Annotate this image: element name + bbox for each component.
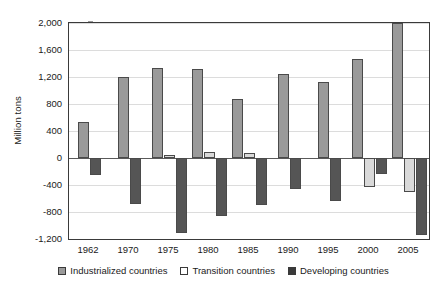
- x-axis-tick-label: 2000: [357, 244, 378, 255]
- bar: [278, 74, 289, 158]
- x-axis-tick-label: 2005: [397, 244, 418, 255]
- bar-group: [189, 23, 229, 239]
- bar: [256, 158, 267, 205]
- bar: [376, 158, 387, 174]
- bar: [152, 68, 163, 158]
- bar: [352, 59, 363, 158]
- y-axis-tick-label: 1,200: [38, 71, 62, 82]
- bar-group: [349, 23, 389, 239]
- bar: [204, 152, 215, 158]
- bar: [176, 158, 187, 233]
- bar-group: [389, 23, 429, 239]
- y-axis-tick-label: -1,200: [35, 233, 62, 244]
- y-axis-title-label: Million tons: [12, 96, 23, 145]
- y-axis-tick-label: -800: [43, 206, 62, 217]
- y-axis-tick-label: 400: [46, 125, 62, 136]
- legend-item[interactable]: Industrialized countries: [58, 265, 167, 276]
- legend-swatch-icon: [58, 267, 66, 275]
- y-axis-tick-label: 0: [57, 152, 62, 163]
- y-axis-tick-label: 800: [46, 98, 62, 109]
- bar: [330, 158, 341, 201]
- bar-group: [269, 23, 309, 239]
- bar-group: [109, 23, 149, 239]
- chart-legend: Industrialized countriesTransition count…: [0, 265, 447, 276]
- bar: [290, 158, 301, 189]
- x-axis-tick-label: 1975: [157, 244, 178, 255]
- gridline: [69, 239, 429, 240]
- legend-label: Industrialized countries: [70, 265, 167, 276]
- bar: [364, 158, 375, 187]
- bar: [244, 153, 255, 158]
- bar-group: [229, 23, 269, 239]
- legend-swatch-icon: [288, 267, 296, 275]
- x-axis-tick-label: 1962: [77, 244, 98, 255]
- bar: [318, 82, 329, 158]
- legend-item[interactable]: Developing countries: [288, 265, 389, 276]
- bar: [130, 158, 141, 204]
- bar: [118, 77, 129, 158]
- x-axis-tick-labels: 196219701975198019851990199520002005: [68, 244, 430, 260]
- bar: [78, 122, 89, 158]
- y-axis-tick-label: 2,000: [38, 17, 62, 28]
- x-axis-tick-label: 1995: [317, 244, 338, 255]
- bar-group: [69, 23, 109, 239]
- legend-label: Developing countries: [300, 265, 389, 276]
- bar: [392, 23, 403, 158]
- bar-chart: Million tons 2,0001,6001,2008004000-400-…: [0, 0, 447, 290]
- legend-item[interactable]: Transition countries: [180, 265, 275, 276]
- bar: [232, 99, 243, 158]
- bar: [192, 69, 203, 158]
- bar: [416, 158, 427, 235]
- y-axis-tick-label: -400: [43, 179, 62, 190]
- legend-swatch-icon: [180, 267, 188, 275]
- x-axis-tick-label: 1990: [277, 244, 298, 255]
- bar: [164, 155, 175, 158]
- bar-group: [309, 23, 349, 239]
- bar: [90, 158, 101, 175]
- y-axis-tick-label: 1,600: [38, 44, 62, 55]
- y-axis-tick-labels: 2,0001,6001,2008004000-400-800-1,200: [26, 0, 68, 245]
- bar: [216, 158, 227, 216]
- x-axis-tick-label: 1985: [237, 244, 258, 255]
- x-axis-tick-label: 1980: [197, 244, 218, 255]
- x-axis-tick-label: 1970: [117, 244, 138, 255]
- bar: [404, 158, 415, 192]
- plot-area: [68, 22, 430, 240]
- bar-group: [149, 23, 189, 239]
- legend-label: Transition countries: [192, 265, 275, 276]
